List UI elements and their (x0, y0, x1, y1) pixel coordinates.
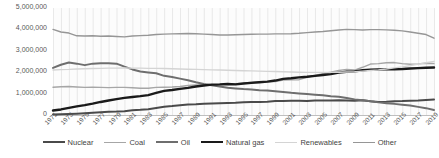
legend-label: Coal (129, 138, 144, 147)
legend-item-coal[interactable]: Coal (104, 138, 144, 147)
legend-swatch-icon (275, 142, 297, 143)
line-chart: 01,000,0002,000,0003,000,0004,000,0005,0… (0, 0, 439, 158)
legend-item-natural-gas[interactable]: Natural gas (201, 138, 264, 147)
legend-swatch-icon (104, 142, 126, 143)
legend-label: Other (378, 138, 397, 147)
plot-background (53, 8, 434, 115)
legend-label: Nuclear (68, 138, 94, 147)
y-tick-label: 3,000,000 (0, 46, 47, 53)
y-tick-label: 1,000,000 (0, 89, 47, 96)
legend-swatch-icon (43, 141, 65, 143)
y-tick-label: 5,000,000 (0, 3, 47, 10)
legend-label: Oil (181, 138, 190, 147)
legend-swatch-icon (156, 141, 178, 143)
legend-label: Renewables (300, 138, 341, 147)
legend-item-oil[interactable]: Oil (156, 138, 190, 147)
legend-item-other[interactable]: Other (353, 138, 397, 147)
legend-swatch-icon (201, 141, 223, 143)
chart-legend: NuclearCoalOilNatural gasRenewablesOther (0, 133, 439, 151)
legend-item-nuclear[interactable]: Nuclear (43, 138, 94, 147)
legend-label: Natural gas (226, 138, 264, 147)
gridlines (53, 8, 435, 115)
y-tick-label: 0 (0, 110, 47, 117)
legend-item-renewables[interactable]: Renewables (275, 138, 341, 147)
legend-swatch-icon (353, 142, 375, 143)
y-tick-label: 4,000,000 (0, 24, 47, 31)
y-tick-label: 2,000,000 (0, 67, 47, 74)
